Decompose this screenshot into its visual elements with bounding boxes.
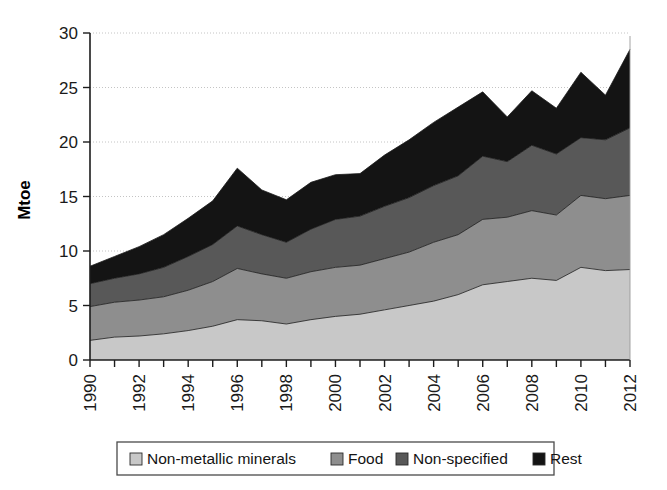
chart-canvas: 051015202530 199019921994199619982000200… bbox=[0, 0, 667, 490]
y-tick-label: 30 bbox=[59, 24, 78, 43]
x-tick-label: 1992 bbox=[130, 374, 149, 412]
legend-label-food: Food bbox=[348, 450, 383, 467]
y-tick-label: 20 bbox=[59, 133, 78, 152]
y-tick-label: 15 bbox=[59, 188, 78, 207]
x-tick-label: 2006 bbox=[474, 374, 493, 412]
x-tick-label: 1990 bbox=[81, 374, 100, 412]
stacked-area-chart: 051015202530 199019921994199619982000200… bbox=[0, 0, 667, 490]
legend-swatch-rest bbox=[533, 453, 545, 465]
legend-label-non-metallic-minerals: Non-metallic minerals bbox=[147, 450, 296, 467]
x-tick-label: 2004 bbox=[425, 374, 444, 412]
y-tick-label: 0 bbox=[69, 351, 78, 370]
x-tick-label: 2002 bbox=[376, 374, 395, 412]
x-tick-label: 2008 bbox=[523, 374, 542, 412]
legend-label-rest: Rest bbox=[550, 450, 583, 467]
x-tick-label: 1996 bbox=[228, 374, 247, 412]
x-tick-label: 1998 bbox=[277, 374, 296, 412]
y-tick-label: 25 bbox=[59, 79, 78, 98]
legend-swatch-non-specified bbox=[396, 453, 408, 465]
chart-legend: Non-metallic mineralsFoodNon-specifiedRe… bbox=[117, 442, 583, 475]
legend-swatch-food bbox=[331, 453, 343, 465]
y-tick-label: 5 bbox=[69, 297, 78, 316]
x-tick-label: 2000 bbox=[326, 374, 345, 412]
x-tick-label: 2012 bbox=[621, 374, 640, 412]
legend-swatch-non-metallic-minerals bbox=[130, 453, 142, 465]
x-tick-label: 2010 bbox=[572, 374, 591, 412]
y-tick-label: 10 bbox=[59, 242, 78, 261]
x-tick-label: 1994 bbox=[179, 374, 198, 412]
legend-label-non-specified: Non-specified bbox=[413, 450, 508, 467]
y-axis-title: Mtoe bbox=[15, 180, 34, 220]
